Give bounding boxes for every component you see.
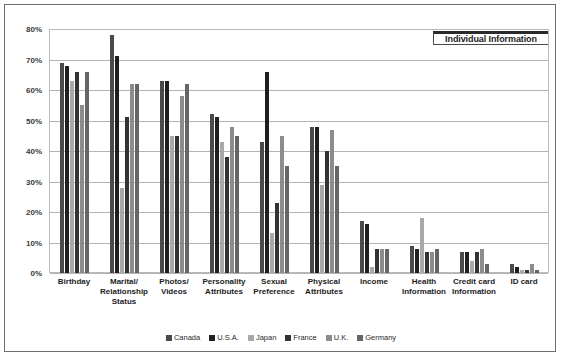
bar: [120, 188, 124, 273]
legend-item-germany[interactable]: Germany: [357, 333, 396, 342]
legend-swatch-icon: [209, 335, 215, 341]
bar: [515, 267, 519, 273]
bar: [160, 81, 164, 273]
y-axis-tick-label: 30%: [26, 177, 42, 186]
bar: [375, 249, 379, 273]
y-axis-tick-label: 20%: [26, 208, 42, 217]
bar: [315, 127, 319, 273]
bar-group: [449, 29, 499, 273]
bar: [415, 249, 419, 273]
bar: [325, 151, 329, 273]
bar: [385, 249, 389, 273]
gridline: [50, 273, 548, 274]
bar: [475, 252, 479, 273]
bar: [135, 84, 139, 273]
legend-label: Germany: [365, 333, 396, 342]
y-axis-tick-label: 60%: [26, 86, 42, 95]
bar-group: [149, 29, 199, 273]
x-axis-category-labels: BirthdayMarital/RelationshipStatusPhotos…: [49, 277, 549, 321]
bar-group: [499, 29, 549, 273]
legend-item-uk[interactable]: U.K.: [326, 333, 349, 342]
category-label-line: ID card: [492, 277, 556, 287]
y-axis-tick-label: 70%: [26, 55, 42, 64]
bar: [425, 252, 429, 273]
bar: [285, 166, 289, 273]
bar-group: [399, 29, 449, 273]
bar: [380, 249, 384, 273]
chart-legend: CanadaU.S.A.JapanFranceU.K.Germany: [5, 333, 557, 342]
bar-group: [199, 29, 249, 273]
legend-item-usa[interactable]: U.S.A.: [209, 333, 239, 342]
legend-item-canada[interactable]: Canada: [166, 333, 200, 342]
bar: [510, 264, 514, 273]
y-axis-tick-label: 80%: [26, 25, 42, 34]
bar: [520, 270, 524, 273]
bar: [110, 35, 114, 273]
legend-swatch-icon: [248, 335, 254, 341]
category-label-line: Information: [442, 287, 506, 297]
bar: [330, 130, 334, 273]
legend-item-france[interactable]: France: [285, 333, 316, 342]
legend-label: Japan: [256, 333, 276, 342]
bar: [235, 136, 239, 273]
category-label-line: Attributes: [292, 287, 356, 297]
y-axis-tick-label: 50%: [26, 116, 42, 125]
bar: [535, 270, 539, 273]
bar: [270, 233, 274, 273]
bar: [185, 84, 189, 273]
bar: [170, 136, 174, 273]
bar: [370, 267, 374, 273]
legend-label: Canada: [174, 333, 200, 342]
bar: [310, 127, 314, 273]
bar: [430, 252, 434, 273]
bar: [70, 81, 74, 273]
bar: [480, 249, 484, 273]
chart-frame: Individual Information 80%70%60%50%40%30…: [4, 4, 556, 352]
bar: [365, 224, 369, 273]
bars-layer: [49, 29, 549, 273]
bar: [525, 270, 529, 273]
legend-label: France: [293, 333, 316, 342]
legend-swatch-icon: [285, 335, 291, 341]
bar: [220, 142, 224, 273]
y-axis-labels: 80%70%60%50%40%30%20%10%0%: [5, 29, 47, 273]
bar: [215, 117, 219, 273]
bar: [225, 157, 229, 273]
legend-swatch-icon: [326, 335, 332, 341]
bar: [60, 63, 64, 273]
bar: [180, 96, 184, 273]
bar: [210, 114, 214, 273]
legend-swatch-icon: [166, 335, 172, 341]
bar: [530, 264, 534, 273]
bar: [175, 136, 179, 273]
legend-item-japan[interactable]: Japan: [248, 333, 276, 342]
bar: [485, 264, 489, 273]
x-axis-category-label: ID card: [492, 277, 556, 287]
bar: [280, 136, 284, 273]
bar: [75, 72, 79, 273]
bar: [260, 142, 264, 273]
y-axis-tick-label: 10%: [26, 238, 42, 247]
bar: [360, 221, 364, 273]
bar: [265, 72, 269, 273]
bar-group: [349, 29, 399, 273]
bar: [420, 218, 424, 273]
bar-group: [249, 29, 299, 273]
y-axis-tick-label: 40%: [26, 147, 42, 156]
bar: [165, 81, 169, 273]
bar: [320, 185, 324, 273]
bar: [435, 249, 439, 273]
bar: [130, 84, 134, 273]
bar-group: [49, 29, 99, 273]
bar: [275, 203, 279, 273]
bar: [230, 127, 234, 273]
bar-group: [299, 29, 349, 273]
legend-label: U.S.A.: [217, 333, 239, 342]
bar: [335, 166, 339, 273]
bar: [470, 261, 474, 273]
bar: [410, 246, 414, 273]
bar: [125, 117, 129, 273]
bar: [115, 56, 119, 273]
bar: [85, 72, 89, 273]
category-label-line: Status: [92, 297, 156, 307]
